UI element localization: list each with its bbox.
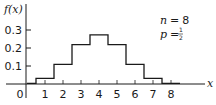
annotation-p: p= 1 2 — [160, 26, 183, 41]
svg-text:n=8: n=8 — [160, 14, 189, 27]
y-tick-label: 0.3 — [5, 24, 23, 37]
binomial-step-chart: f(x) x 0.10.20.3 012345678 n=8 p= 1 2 — [0, 0, 216, 105]
y-ticks: 0.10.20.3 — [5, 24, 32, 73]
y-tick-label: 0.1 — [5, 60, 23, 73]
x-tick-label: 3 — [78, 88, 85, 101]
x-tick-label: 4 — [96, 88, 103, 101]
y-axis-title: f(x) — [3, 3, 23, 16]
x-tick-label: 7 — [150, 88, 157, 101]
svg-text:p=: p= — [160, 28, 179, 41]
step-line — [27, 35, 180, 84]
y-tick-label: 0.2 — [5, 42, 23, 55]
annotation-n: n=8 — [160, 14, 189, 27]
x-ticks: 012345678 — [17, 80, 175, 101]
x-tick-label: 1 — [42, 88, 49, 101]
x-tick-label: 5 — [114, 88, 121, 101]
x-tick-label: 2 — [60, 88, 67, 101]
x-tick-label: 6 — [132, 88, 139, 101]
svg-text:2: 2 — [179, 34, 183, 41]
x-tick-label: 8 — [168, 88, 175, 101]
x-tick-label: 0 — [17, 88, 24, 101]
svg-text:1: 1 — [179, 26, 183, 33]
x-axis-title: x — [207, 77, 214, 90]
